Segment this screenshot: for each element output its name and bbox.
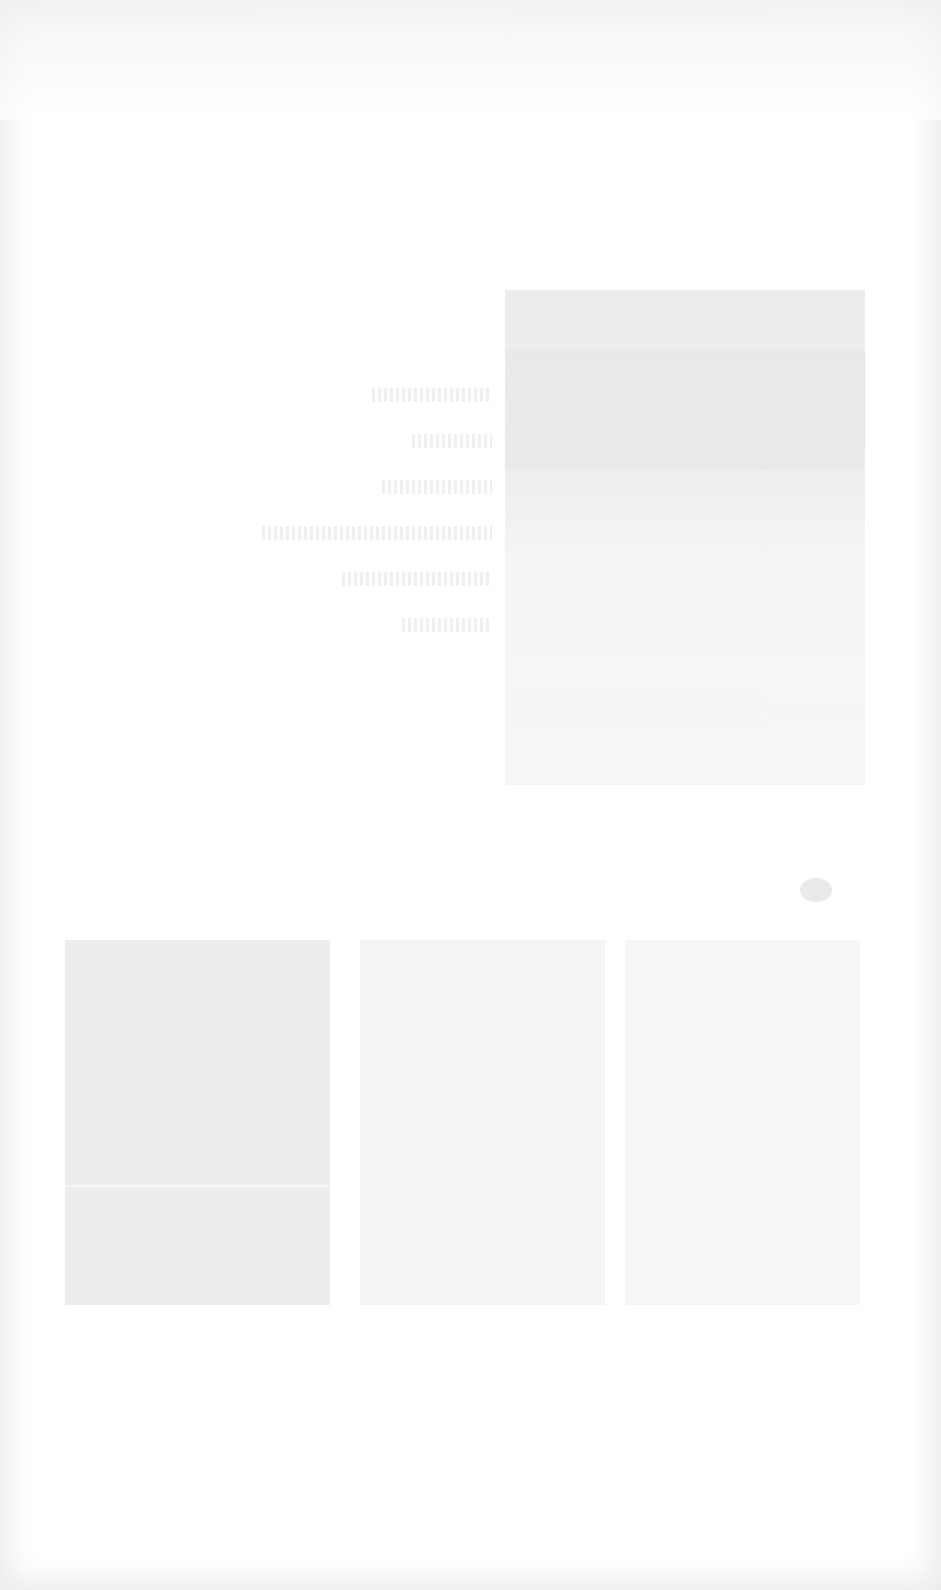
text-line	[402, 618, 492, 632]
text-line	[412, 434, 492, 448]
header-band	[0, 0, 941, 120]
text-line	[262, 526, 492, 540]
hero-image-shading	[505, 350, 865, 470]
decorative-mark	[800, 878, 832, 902]
text-line	[382, 480, 492, 494]
text-column	[200, 388, 492, 664]
gallery-tile-1	[65, 940, 330, 1305]
page	[0, 0, 941, 1590]
gallery-tile-2	[360, 940, 605, 1305]
text-line	[342, 572, 492, 586]
gallery-tile-3	[625, 940, 860, 1305]
tile-seam	[65, 1185, 330, 1187]
hero-image	[505, 290, 865, 785]
text-line	[372, 388, 492, 402]
